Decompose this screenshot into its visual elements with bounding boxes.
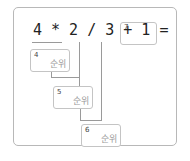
rank-label: 순위 <box>101 132 117 145</box>
rank-order: 6 <box>85 126 89 134</box>
connector-rank5-h <box>80 120 102 121</box>
rank-order: 4 <box>34 51 38 59</box>
underline-4x2 <box>32 42 62 43</box>
connector-line-plus <box>101 42 102 121</box>
answer-value: 7 <box>124 23 128 31</box>
rank-box-6[interactable]: 6 순위 <box>81 124 121 147</box>
connector-rank5-v <box>80 108 81 120</box>
rank-box-5[interactable]: 5 순위 <box>53 86 93 109</box>
rank-box-4[interactable]: 4 순위 <box>30 49 70 72</box>
rank-order: 5 <box>57 88 61 96</box>
rank-label: 순위 <box>50 57 66 70</box>
answer-box[interactable]: 7 <box>120 22 157 45</box>
rank-label: 순위 <box>73 94 89 107</box>
connector-rank4-h <box>51 77 80 78</box>
